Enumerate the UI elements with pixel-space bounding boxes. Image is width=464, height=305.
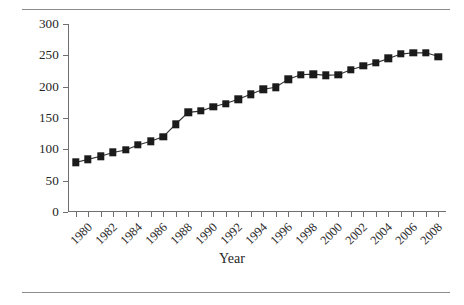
x-axis-tick (363, 212, 364, 217)
x-axis-tick (438, 212, 439, 217)
data-point-marker (385, 55, 392, 62)
x-axis-tick (138, 212, 139, 217)
x-axis-tick (326, 212, 327, 217)
data-point-marker (410, 49, 417, 56)
data-point-marker (159, 133, 166, 140)
x-axis-tick (351, 212, 352, 217)
x-axis-tick-label: 1994 (242, 220, 270, 248)
x-axis-tick-label: 1996 (267, 220, 295, 248)
x-axis-tick-label: 1984 (117, 220, 145, 248)
data-point-marker (235, 95, 242, 102)
data-point-marker (272, 84, 279, 91)
data-point-marker (347, 66, 354, 73)
data-point-marker (372, 59, 379, 66)
x-axis-tick-label: 2008 (417, 220, 445, 248)
data-point-marker (184, 109, 191, 116)
x-axis-tick (113, 212, 114, 217)
x-axis-tick-label: 2004 (367, 220, 395, 248)
data-point-marker (435, 53, 442, 60)
data-point-marker (222, 100, 229, 107)
x-axis-tick (276, 212, 277, 217)
x-axis-tick (388, 212, 389, 217)
x-axis-title: Year (0, 251, 464, 267)
x-axis-tick (263, 212, 264, 217)
data-point-marker (197, 107, 204, 114)
y-axis-tick (63, 149, 68, 150)
x-axis-tick (126, 212, 127, 217)
data-point-marker (72, 159, 79, 166)
x-axis-tick (401, 212, 402, 217)
y-axis-tick-label: 0 (52, 204, 59, 220)
x-axis-tick (213, 212, 214, 217)
top-divider-rule (22, 9, 450, 10)
y-axis-tick-label: 50 (46, 173, 59, 189)
data-point-marker (147, 137, 154, 144)
y-axis-tick (63, 212, 68, 213)
data-point-marker (310, 70, 317, 77)
x-axis-tick (251, 212, 252, 217)
x-axis-tick-label: 1980 (67, 220, 95, 248)
x-axis-tick (238, 212, 239, 217)
x-axis-tick (88, 212, 89, 217)
x-axis-tick (76, 212, 77, 217)
data-point-marker (134, 141, 141, 148)
data-point-marker (247, 90, 254, 97)
y-axis-tick (63, 181, 68, 182)
x-axis-tick (301, 212, 302, 217)
x-axis-tick (101, 212, 102, 217)
x-axis-tick-label: 2006 (392, 220, 420, 248)
x-axis-tick (176, 212, 177, 217)
data-point-marker (172, 121, 179, 128)
y-axis-tick (63, 24, 68, 25)
x-axis-tick (413, 212, 414, 217)
data-point-marker (297, 71, 304, 78)
data-point-marker (322, 72, 329, 79)
x-axis-tick (426, 212, 427, 217)
y-axis-tick-label: 300 (39, 16, 59, 32)
y-axis-tick-label: 150 (39, 110, 59, 126)
data-point-marker (335, 71, 342, 78)
x-axis-tick (151, 212, 152, 217)
chart-figure: Inmates per 100,000 Year 050100150200250… (0, 0, 464, 305)
plot-area: 0501001502002503001980198219841986198819… (68, 24, 446, 212)
data-point-marker (97, 153, 104, 160)
data-point-marker (84, 156, 91, 163)
y-axis-tick-label: 100 (39, 141, 59, 157)
data-point-marker (109, 149, 116, 156)
data-point-marker (260, 85, 267, 92)
data-point-marker (122, 146, 129, 153)
x-axis-tick (163, 212, 164, 217)
x-axis-tick (201, 212, 202, 217)
bottom-divider-rule (22, 292, 450, 293)
x-axis-tick-label: 2000 (317, 220, 345, 248)
data-point-marker (285, 75, 292, 82)
series-markers (68, 24, 446, 212)
y-axis-tick (63, 118, 68, 119)
data-point-marker (209, 103, 216, 110)
x-axis-tick (338, 212, 339, 217)
x-axis-tick (376, 212, 377, 217)
x-axis-tick-label: 2002 (342, 220, 370, 248)
x-axis-tick-label: 1990 (192, 220, 220, 248)
x-axis-tick (288, 212, 289, 217)
x-axis-tick-label: 1992 (217, 220, 245, 248)
y-axis-tick (63, 55, 68, 56)
data-point-marker (360, 62, 367, 69)
y-axis-tick-label: 250 (39, 47, 59, 63)
y-axis-tick-label: 200 (39, 79, 59, 95)
x-axis-tick-label: 1986 (142, 220, 170, 248)
x-axis-tick-label: 1988 (167, 220, 195, 248)
x-axis-tick (226, 212, 227, 217)
x-axis-tick-label: 1982 (92, 220, 120, 248)
data-point-marker (397, 50, 404, 57)
x-axis-tick-label: 1998 (292, 220, 320, 248)
y-axis-tick (63, 87, 68, 88)
x-axis-tick (313, 212, 314, 217)
data-point-marker (422, 49, 429, 56)
x-axis-tick (188, 212, 189, 217)
